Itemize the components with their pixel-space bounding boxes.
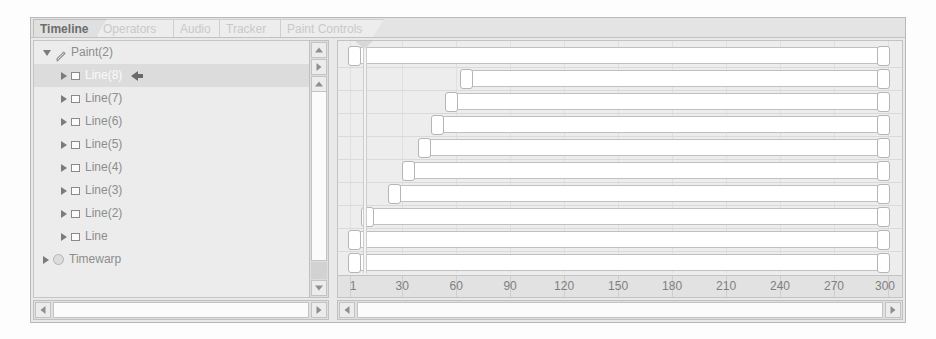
chevron-right-icon[interactable] (61, 141, 67, 149)
tab-timeline[interactable]: Timeline (33, 19, 107, 37)
selected-layer-marker-icon (131, 71, 138, 81)
ruler-tick-label: 180 (662, 279, 682, 293)
bar-start-handle[interactable] (402, 161, 415, 181)
chevron-right-icon[interactable] (61, 210, 67, 218)
scroll-down-icon (315, 286, 323, 291)
bar-end-handle[interactable] (877, 230, 890, 250)
playhead-handle-icon[interactable] (355, 41, 373, 49)
tree-row[interactable]: Line(6) (34, 110, 309, 133)
bar-end-handle[interactable] (877, 161, 890, 181)
vertical-scroll-thumb[interactable] (311, 91, 327, 261)
bar-end-handle[interactable] (877, 46, 890, 66)
tree-row[interactable]: Line(5) (34, 133, 309, 156)
vertical-scroll-track[interactable] (311, 262, 327, 279)
bar-end-handle[interactable] (877, 253, 890, 273)
chevron-right-icon[interactable] (61, 164, 67, 172)
track-area[interactable] (338, 41, 902, 273)
bar-start-handle[interactable] (431, 115, 444, 135)
layer-icon (71, 141, 80, 149)
tree-row[interactable]: Timewarp (34, 248, 309, 271)
play-icon (317, 63, 322, 71)
ruler-tick-label: 90 (503, 279, 516, 293)
layer-icon (71, 164, 80, 172)
tree-row[interactable]: Line(2) (34, 202, 309, 225)
tree-row[interactable]: Line (34, 225, 309, 248)
bar-end-handle[interactable] (877, 115, 890, 135)
scroll-up-button[interactable] (311, 42, 327, 58)
tree-vertical-scrollbar[interactable] (309, 40, 329, 298)
scroll-right-icon (891, 306, 896, 314)
bar-end-handle[interactable] (877, 92, 890, 112)
ruler-tick-label: 60 (449, 279, 462, 293)
tree-scroll-right-button[interactable] (311, 302, 327, 318)
bar-end-handle[interactable] (877, 69, 890, 89)
bar-start-handle[interactable] (348, 253, 361, 273)
time-ruler[interactable]: 1306090120150180210240270300 (338, 275, 902, 297)
tab-strip: TimelineOperatorsAudioTrackerPaint Contr… (31, 18, 905, 38)
chevron-right-icon[interactable] (43, 256, 49, 264)
bar-start-handle[interactable] (348, 230, 361, 250)
circle-icon (53, 254, 64, 265)
timeline-bar[interactable] (350, 254, 888, 271)
layer-icon (71, 210, 80, 218)
tree-row-label: Line(3) (85, 183, 122, 197)
tree-row[interactable]: Line(7) (34, 87, 309, 110)
layer-icon (71, 95, 80, 103)
tree-scroll-left-button[interactable] (35, 302, 51, 318)
bar-start-handle[interactable] (460, 69, 473, 89)
tree-row-label: Line(5) (85, 137, 122, 151)
track-separator (338, 67, 902, 68)
timeline-panel[interactable]: 1306090120150180210240270300 (337, 40, 903, 298)
ruler-tick-label: 210 (716, 279, 736, 293)
tab-operators[interactable]: Operators (96, 19, 184, 37)
timeline-bar[interactable] (404, 162, 888, 179)
scroll-left-icon (345, 306, 350, 314)
chevron-right-icon[interactable] (61, 187, 67, 195)
timeline-scroll-right-button[interactable] (885, 302, 901, 318)
chevron-right-icon[interactable] (61, 118, 67, 126)
track-separator (338, 228, 902, 229)
ruler-tick-label: 120 (554, 279, 574, 293)
bar-start-handle[interactable] (445, 92, 458, 112)
tree-horizontal-scrollbar[interactable] (33, 300, 329, 320)
tree-row[interactable]: Line(4) (34, 156, 309, 179)
layer-tree-panel[interactable]: Paint(2)Line(8)Line(7)Line(6)Line(5)Line… (33, 40, 309, 298)
tree-row[interactable]: Paint(2) (34, 41, 309, 64)
bar-end-handle[interactable] (877, 184, 890, 204)
timeline-scroll-left-button[interactable] (339, 302, 355, 318)
track-separator (338, 251, 902, 252)
bar-start-handle[interactable] (388, 184, 401, 204)
timeline-bar[interactable] (350, 47, 888, 64)
ruler-tick-label: 1 (350, 279, 357, 293)
timeline-bar[interactable] (350, 231, 888, 248)
play-button[interactable] (311, 59, 327, 75)
timeline-bar[interactable] (462, 70, 888, 87)
tab-paint-controls[interactable]: Paint Controls (280, 19, 384, 37)
timeline-horizontal-scroll-thumb[interactable] (357, 302, 883, 318)
chevron-right-icon[interactable] (61, 233, 67, 241)
tree-row-label: Line(7) (85, 91, 122, 105)
panel-body: Paint(2)Line(8)Line(7)Line(6)Line(5)Line… (31, 38, 905, 322)
bar-start-handle[interactable] (348, 46, 361, 66)
bar-end-handle[interactable] (877, 138, 890, 158)
timeline-bar[interactable] (363, 208, 888, 225)
tree-row[interactable]: Line(3) (34, 179, 309, 202)
timeline-bar[interactable] (390, 185, 888, 202)
chevron-right-icon[interactable] (61, 95, 67, 103)
tree-horizontal-scroll-thumb[interactable] (53, 302, 309, 318)
chevron-down-icon[interactable] (43, 50, 51, 56)
bar-end-handle[interactable] (877, 207, 890, 227)
timeline-bar[interactable] (433, 116, 888, 133)
chevron-right-icon[interactable] (61, 72, 67, 80)
tree-row-label: Line(4) (85, 160, 122, 174)
scroll-down-button[interactable] (311, 280, 327, 296)
timeline-bar[interactable] (447, 93, 888, 110)
timeline-bar[interactable] (420, 139, 888, 156)
layer-icon (71, 118, 80, 126)
timeline-horizontal-scrollbar[interactable] (337, 300, 903, 320)
playhead[interactable] (363, 41, 367, 273)
track-separator (338, 182, 902, 183)
bar-start-handle[interactable] (418, 138, 431, 158)
scroll-top-button[interactable] (311, 76, 327, 92)
tree-row[interactable]: Line(8) (34, 64, 309, 87)
